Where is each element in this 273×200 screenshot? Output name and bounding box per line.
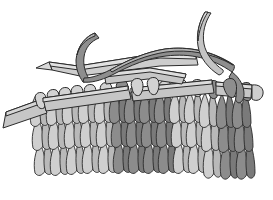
illustration-canvas: Knitting technique illustration two-colo… [0, 0, 273, 200]
knitting-illustration [0, 0, 273, 200]
